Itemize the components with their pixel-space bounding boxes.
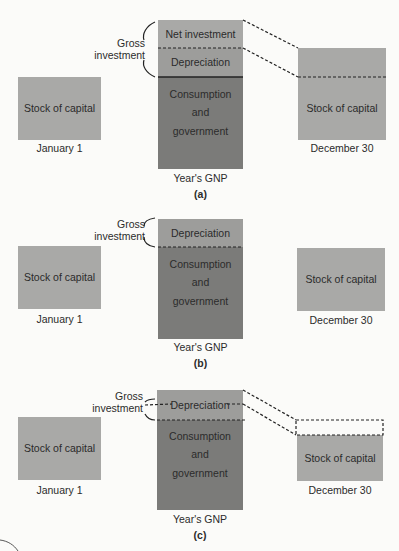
jan1-label-b: January 1 bbox=[18, 313, 101, 325]
dec30-label-c: December 30 bbox=[297, 484, 383, 496]
depreciation-segment-a: Depreciation bbox=[158, 48, 243, 77]
gross-investment-label-a: Gross investment bbox=[88, 37, 145, 61]
consumption-government-segment-b: Consumption and government bbox=[158, 247, 243, 339]
jan1-capital-box-c: Stock of capital bbox=[18, 417, 101, 480]
gross-investment-label-c: Gross investment bbox=[88, 390, 143, 414]
consumption-government-segment-c: Consumption and government bbox=[157, 420, 243, 510]
panel-tag-a: (a) bbox=[158, 188, 243, 200]
dec30-capital-box-a: Stock of capital bbox=[298, 48, 386, 140]
gross-brace-c bbox=[145, 399, 155, 420]
dec30-capital-box-c: Stock of capital bbox=[297, 435, 383, 481]
jan1-capital-box-b: Stock of capital bbox=[18, 246, 101, 309]
jan1-capital-text-a: Stock of capital bbox=[24, 99, 95, 117]
dec30-capital-box-b: Stock of capital bbox=[297, 248, 385, 311]
dec30-label-a: December 30 bbox=[298, 142, 386, 154]
consumption-government-segment-a: Consumption and government bbox=[158, 77, 243, 169]
gnp-label-b: Year's GNP bbox=[158, 341, 243, 353]
gnp-label-a: Year's GNP bbox=[158, 172, 243, 184]
gross-brace-a bbox=[143, 22, 155, 77]
net-investment-segment-a: Net investment bbox=[158, 20, 243, 48]
depreciation-segment-b: Depreciation bbox=[158, 219, 243, 247]
jan1-label-a: January 1 bbox=[18, 142, 101, 154]
gross-investment-label-b: Gross investment bbox=[88, 218, 145, 242]
dec30-label-b: December 30 bbox=[297, 314, 385, 326]
gnp-label-c: Year's GNP bbox=[157, 513, 243, 525]
depreciation-segment-c: Depreciation bbox=[157, 390, 243, 420]
corner-arc bbox=[0, 540, 18, 551]
jan1-label-c: January 1 bbox=[18, 484, 101, 496]
jan1-capital-box-a: Stock of capital bbox=[18, 77, 101, 140]
panel-tag-c: (c) bbox=[157, 529, 243, 541]
panel-tag-b: (b) bbox=[158, 357, 243, 369]
gross-brace-b bbox=[144, 218, 155, 247]
